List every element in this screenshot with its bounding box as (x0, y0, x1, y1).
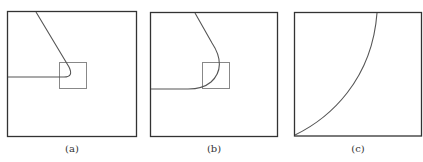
panel-b-caption: (b) (194, 143, 234, 154)
panel-a (8, 12, 137, 137)
panel-a-inset-box (60, 63, 87, 89)
panel-c-curve (295, 13, 377, 135)
panel-c-caption: (c) (338, 143, 378, 154)
panel-c-frame (295, 13, 422, 137)
figure-canvas (0, 0, 423, 162)
panel-b (151, 13, 278, 137)
panel-a-caption: (a) (52, 143, 92, 154)
panel-c (295, 13, 422, 137)
panel-a-curve (8, 12, 71, 77)
panel-a-frame (8, 12, 137, 137)
panel-b-frame (151, 13, 278, 137)
panel-b-curve (151, 13, 219, 89)
